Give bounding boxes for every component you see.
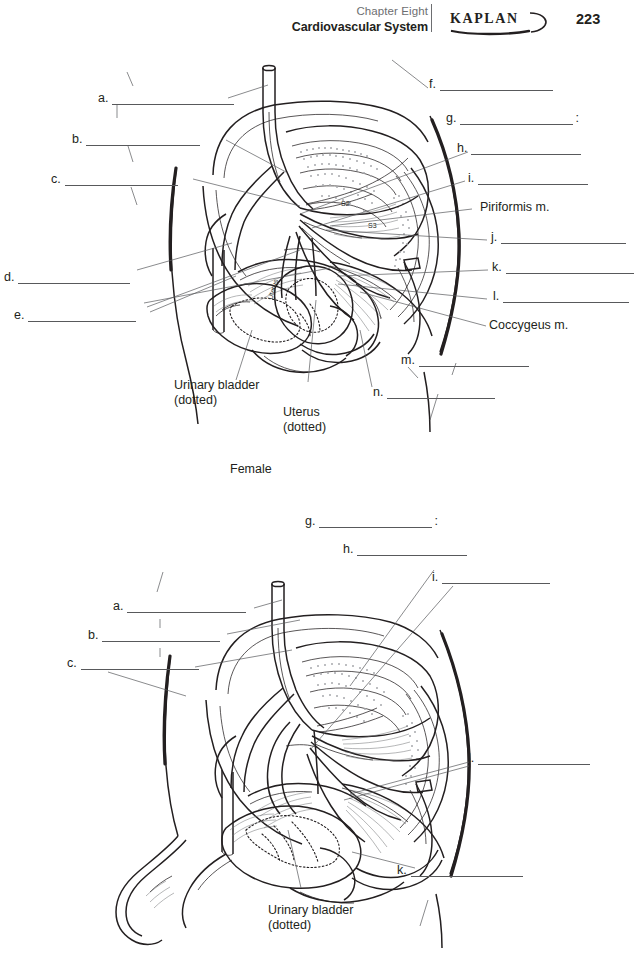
label-letter: h. [343, 543, 357, 556]
callout-line-2: (dotted) [268, 918, 353, 933]
label-blank-l[interactable] [503, 291, 629, 303]
obturator-fibers [248, 268, 303, 304]
label-row-female-i[interactable]: i. [468, 172, 588, 185]
header-divider [431, 4, 432, 32]
callout-urinary-bladder-male: Urinary bladder (dotted) [268, 903, 353, 933]
label-letter: g. [305, 515, 319, 528]
male-pelvis-illustration [0, 500, 634, 959]
chapter-label: Chapter Eight [356, 5, 428, 17]
label-row-male-c[interactable]: c. [67, 657, 199, 670]
label-letter: c. [67, 657, 81, 670]
label-letter: f. [429, 78, 440, 91]
label-blank-a[interactable] [112, 93, 234, 105]
label-letter: g. [446, 112, 460, 125]
label-blank-n[interactable] [387, 387, 495, 399]
textbook-page: Chapter Eight Cardiovascular System KAPL… [0, 0, 634, 959]
label-row-male-h[interactable]: h. [343, 543, 467, 556]
label-blank-f[interactable] [440, 79, 553, 91]
label-row-female-m[interactable]: m. [401, 354, 529, 367]
label-letter: e. [14, 309, 28, 322]
label-blank-g[interactable] [460, 113, 573, 125]
label-letter: a. [98, 92, 112, 105]
label-letter: n. [373, 386, 387, 399]
label-blank-male-i[interactable] [442, 572, 550, 584]
label-blank-d[interactable] [18, 272, 130, 284]
bone-stipple [310, 663, 419, 785]
label-row-male-b[interactable]: b. [88, 629, 220, 642]
label-row-male-g[interactable]: g. : [305, 515, 438, 528]
callout-line-2: (dotted) [283, 420, 326, 435]
bone-stipple [300, 147, 410, 267]
label-letter: l. [468, 752, 478, 765]
label-letter: d. [4, 271, 18, 284]
label-letter: b. [88, 629, 102, 642]
label-row-male-l[interactable]: l. [468, 752, 590, 765]
label-blank-male-h[interactable] [357, 544, 467, 556]
label-letter: i. [468, 172, 478, 185]
label-blank-e[interactable] [28, 310, 136, 322]
label-row-female-c[interactable]: c. [51, 173, 178, 186]
label-blank-male-a[interactable] [127, 601, 246, 613]
label-blank-male-c[interactable] [81, 658, 199, 670]
label-row-female-e[interactable]: e. [14, 309, 136, 322]
label-row-male-a[interactable]: a. [113, 600, 246, 613]
label-row-female-l[interactable]: l. [493, 290, 629, 303]
label-blank-k[interactable] [506, 262, 634, 274]
piriformis-muscle-fibers [342, 726, 412, 760]
label-blank-c[interactable] [65, 174, 178, 186]
label-letter: c. [51, 173, 65, 186]
callout-line-1: Urinary bladder [268, 903, 353, 918]
label-row-female-h[interactable]: h. [457, 142, 581, 155]
callout-line-1: Urinary bladder [174, 378, 259, 393]
label-blank-h[interactable] [471, 143, 581, 155]
page-header: Chapter Eight Cardiovascular System KAPL… [0, 0, 634, 46]
label-colon: : [573, 112, 578, 125]
piriformis-muscle-fibers [330, 204, 400, 238]
label-row-female-n[interactable]: n. [373, 386, 495, 399]
kaplan-logo: KAPLAN [447, 8, 561, 36]
callout-uterus-female: Uterus (dotted) [283, 405, 326, 435]
label-letter: b. [72, 133, 86, 146]
coccygeus-muscle-fibers [334, 268, 400, 331]
label-coccygeus: Coccygeus m. [489, 318, 568, 333]
label-row-female-b[interactable]: b. [72, 133, 200, 146]
label-letter: j. [491, 231, 501, 244]
label-blank-b[interactable] [86, 134, 200, 146]
label-row-female-g[interactable]: g. : [446, 112, 579, 125]
label-row-female-d[interactable]: d. [4, 271, 130, 284]
label-letter: h. [457, 142, 471, 155]
figure-caption-female: Female [230, 462, 272, 476]
kaplan-wordmark: KAPLAN [450, 11, 519, 27]
label-blank-male-l[interactable] [478, 753, 590, 765]
label-colon: : [432, 515, 437, 528]
label-blank-m[interactable] [419, 355, 529, 367]
label-piriformis: Piriformis m. [480, 200, 549, 215]
label-blank-male-b[interactable] [102, 630, 220, 642]
label-letter: m. [401, 354, 419, 367]
callout-line-2: (dotted) [174, 393, 259, 408]
label-row-male-i[interactable]: i. [432, 571, 550, 584]
label-row-male-k[interactable]: k. [397, 864, 523, 877]
label-row-female-k[interactable]: k. [492, 261, 634, 274]
chapter-title: Cardiovascular System [292, 20, 428, 34]
label-blank-male-k[interactable] [411, 865, 523, 877]
label-blank-i[interactable] [478, 173, 588, 185]
vertebra-label-s3: S3 [368, 222, 377, 229]
label-letter: l. [493, 290, 503, 303]
label-blank-j[interactable] [501, 232, 626, 244]
label-letter: k. [492, 261, 506, 274]
label-row-female-j[interactable]: j. [491, 231, 626, 244]
vertebra-label-s2: S2 [341, 200, 350, 207]
label-row-female-a[interactable]: a. [98, 92, 234, 105]
uterus-inline-label: Uterus [266, 278, 279, 300]
page-number: 223 [576, 11, 600, 27]
callout-line-1: Uterus [283, 405, 326, 420]
label-letter: i. [432, 571, 442, 584]
label-letter: a. [113, 600, 127, 613]
label-row-female-f[interactable]: f. [429, 78, 553, 91]
callout-urinary-bladder-female: Urinary bladder (dotted) [174, 378, 259, 408]
label-blank-male-g[interactable] [319, 516, 432, 528]
coccygeus-muscle-fibers [346, 790, 412, 853]
label-letter: k. [397, 864, 411, 877]
